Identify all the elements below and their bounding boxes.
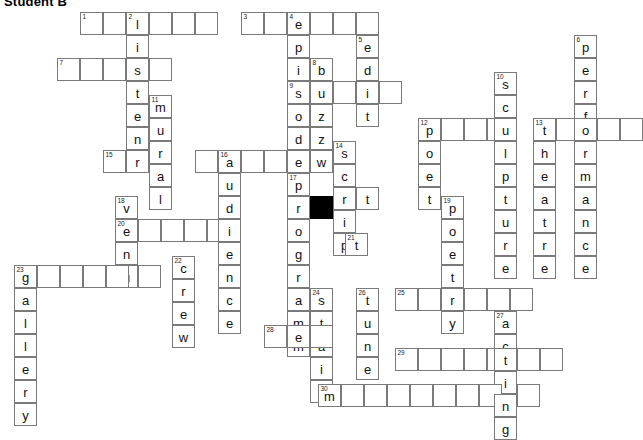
crossword-cell[interactable]: r [574, 141, 597, 164]
crossword-cell[interactable]: t [533, 210, 556, 233]
crossword-cell[interactable]: l [149, 187, 172, 210]
crossword-cell[interactable]: d [287, 127, 310, 150]
crossword-cell[interactable]: o [287, 219, 310, 242]
crossword-cell[interactable] [540, 348, 563, 371]
crossword-cell[interactable]: y [441, 311, 464, 334]
crossword-cell[interactable] [103, 58, 126, 81]
crossword-cell[interactable]: a [14, 288, 37, 311]
crossword-cell[interactable] [487, 288, 510, 311]
crossword-cell[interactable]: r [333, 187, 356, 210]
crossword-cell[interactable]: e [356, 357, 379, 380]
crossword-cell[interactable] [456, 384, 479, 407]
crossword-cell[interactable] [410, 384, 433, 407]
crossword-cell[interactable]: 9s [287, 81, 310, 104]
crossword-cell[interactable]: 30m [318, 384, 341, 407]
crossword-cell[interactable]: o [441, 219, 464, 242]
crossword-cell[interactable]: e [574, 256, 597, 279]
crossword-cell[interactable]: 3 [241, 12, 264, 35]
crossword-cell[interactable] [149, 58, 172, 81]
crossword-cell[interactable]: 2l [126, 12, 149, 35]
crossword-cell[interactable] [310, 12, 333, 35]
crossword-cell[interactable]: w [172, 325, 195, 348]
crossword-cell[interactable] [333, 81, 356, 104]
crossword-cell[interactable] [172, 12, 195, 35]
crossword-cell[interactable]: o [287, 104, 310, 127]
crossword-cell[interactable] [60, 265, 83, 288]
crossword-cell[interactable]: 19p [441, 196, 464, 219]
crossword-cell[interactable] [441, 348, 464, 371]
crossword-cell[interactable]: o [418, 141, 441, 164]
crossword-cell[interactable]: 22c [172, 256, 195, 279]
crossword-cell[interactable]: 28 [264, 325, 287, 348]
crossword-cell[interactable] [510, 288, 533, 311]
crossword-cell[interactable]: 10s [494, 72, 517, 95]
crossword-cell[interactable]: n [218, 265, 241, 288]
crossword-cell[interactable]: p [287, 35, 310, 58]
crossword-cell[interactable] [333, 12, 356, 35]
crossword-cell[interactable] [310, 325, 333, 348]
crossword-cell[interactable]: t [418, 187, 441, 210]
crossword-cell[interactable]: e [287, 150, 310, 173]
crossword-cell[interactable]: u [149, 118, 172, 141]
crossword-cell[interactable]: u [494, 118, 517, 141]
crossword-cell[interactable]: 5e [356, 35, 379, 58]
crossword-cell[interactable]: e [418, 164, 441, 187]
crossword-cell[interactable]: o [574, 118, 597, 141]
crossword-cell[interactable]: e [533, 164, 556, 187]
crossword-cell[interactable]: 23g [14, 265, 37, 288]
crossword-cell[interactable] [364, 384, 387, 407]
crossword-cell[interactable] [464, 118, 487, 141]
crossword-cell[interactable]: i [310, 357, 333, 380]
crossword-cell[interactable]: e [494, 256, 517, 279]
crossword-cell[interactable] [356, 12, 379, 35]
crossword-cell[interactable]: 7 [57, 58, 80, 81]
crossword-cell[interactable]: s [126, 58, 149, 81]
crossword-cell[interactable]: 16a [218, 150, 241, 173]
crossword-cell[interactable]: e [287, 325, 310, 348]
crossword-cell[interactable]: r [287, 196, 310, 219]
crossword-cell[interactable]: u [310, 81, 333, 104]
crossword-cell[interactable]: n [126, 127, 149, 150]
crossword-cell[interactable]: r [574, 81, 597, 104]
crossword-cell[interactable]: 8b [310, 58, 333, 81]
crossword-cell[interactable] [341, 384, 364, 407]
crossword-cell[interactable]: l [14, 311, 37, 334]
crossword-cell[interactable] [103, 12, 126, 35]
crossword-cell[interactable]: 15 [103, 150, 126, 173]
crossword-cell[interactable]: 11m [149, 95, 172, 118]
crossword-cell[interactable]: r [14, 380, 37, 403]
crossword-cell[interactable]: a [149, 164, 172, 187]
crossword-cell[interactable]: e [14, 357, 37, 380]
crossword-cell[interactable]: 20e [115, 219, 138, 242]
crossword-cell[interactable]: n [356, 334, 379, 357]
crossword-cell[interactable]: c [333, 164, 356, 187]
crossword-cell[interactable]: r [126, 150, 149, 173]
crossword-cell[interactable]: a [287, 288, 310, 311]
crossword-cell[interactable]: t [494, 187, 517, 210]
crossword-cell[interactable]: 6p [574, 35, 597, 58]
crossword-cell[interactable]: t [126, 81, 149, 104]
crossword-cell[interactable]: t [356, 187, 379, 210]
crossword-cell[interactable]: i [218, 219, 241, 242]
crossword-cell[interactable]: t [441, 265, 464, 288]
crossword-cell[interactable]: r [494, 233, 517, 256]
crossword-cell[interactable]: 1 [80, 12, 103, 35]
crossword-cell[interactable]: e [218, 242, 241, 265]
crossword-cell[interactable]: t [356, 104, 379, 127]
crossword-cell[interactable]: p [494, 164, 517, 187]
crossword-cell[interactable]: 21t [345, 233, 368, 256]
crossword-cell[interactable]: h [533, 141, 556, 164]
crossword-cell[interactable] [464, 288, 487, 311]
crossword-cell[interactable]: 14s [333, 141, 356, 164]
crossword-cell[interactable]: 18v [115, 196, 138, 219]
crossword-cell[interactable]: g [494, 417, 517, 440]
crossword-cell[interactable] [37, 265, 60, 288]
crossword-cell[interactable]: e [172, 302, 195, 325]
crossword-cell[interactable]: e [574, 58, 597, 81]
crossword-cell[interactable]: u [218, 173, 241, 196]
crossword-cell[interactable]: y [14, 403, 37, 426]
crossword-cell[interactable]: d [356, 58, 379, 81]
crossword-cell[interactable]: i [356, 81, 379, 104]
crossword-cell[interactable]: t [494, 348, 517, 371]
